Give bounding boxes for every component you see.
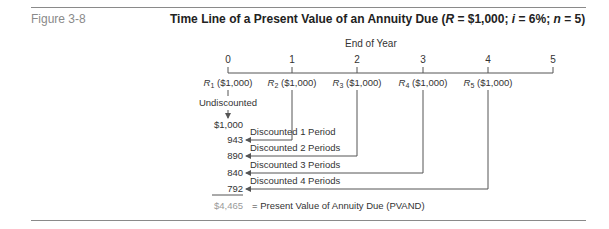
present-value: 840 [227,167,243,178]
receipt-label: R3 ($1,000) [333,77,382,89]
receipt-label: R1 ($1,000) [204,77,253,89]
receipt-label: R4 ($1,000) [399,77,448,89]
period-label: 1 [289,54,295,65]
discount-label: Discounted 2 Periods [250,142,341,153]
period-label: 3 [420,54,426,65]
period-label: 4 [485,54,491,65]
present-value: 943 [227,134,243,145]
timeline-diagram: 012345 R1 ($1,000)R2 ($1,000)R3 ($1,000)… [0,0,609,229]
total-label: = Present Value of Annuity Due (PVAND) [252,200,425,211]
period-label: 2 [354,54,360,65]
period-label: 5 [550,54,556,65]
present-value: 792 [227,183,243,194]
discount-label: Discounted 1 Period [250,126,336,137]
undiscounted-label: Undiscounted [199,97,257,108]
present-value: 890 [227,150,243,161]
period-label: 0 [225,54,231,65]
discount-label: Discounted 4 Periods [250,175,341,186]
total-value: $4,465 [214,200,243,211]
discount-label: Discounted 3 Periods [250,159,341,170]
present-value: $1,000 [214,119,243,130]
receipt-label: R5 ($1,000) [464,77,513,89]
receipt-label: R2 ($1,000) [268,77,317,89]
